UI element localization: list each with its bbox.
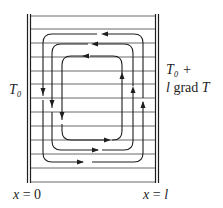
grad-text: grad: [170, 80, 202, 95]
left-position-label: x = 0: [13, 187, 41, 203]
arrow-down-icon: [50, 100, 55, 107]
left-wall: [28, 14, 31, 183]
arrow-right-icon: [104, 138, 111, 143]
l-symbol: l: [164, 187, 168, 202]
arrow-up-icon: [141, 101, 146, 108]
arrow-up-icon: [120, 72, 125, 79]
right-position-label: x = l: [143, 187, 168, 203]
left-temperature-label: T₀: [9, 82, 22, 98]
arrow-up-icon: [131, 86, 136, 93]
equals-text: =: [149, 187, 164, 202]
t0-plus-text: T₀ +: [166, 62, 192, 77]
arrow-left-icon: [101, 32, 108, 37]
convection-diagram: [0, 0, 223, 208]
arrow-down-icon: [41, 88, 46, 95]
arrow-right-icon: [92, 148, 99, 153]
right-temperature-label-line2: l grad T: [166, 80, 210, 96]
arrow-right-icon: [77, 160, 84, 165]
layer-lines: [31, 16, 155, 182]
right-temperature-label-line1: T₀ +: [166, 62, 192, 78]
arrow-down-icon: [60, 112, 65, 119]
arrow-left-icon: [82, 54, 89, 59]
t0-symbol: T₀: [9, 82, 22, 97]
t-symbol: T: [202, 80, 210, 95]
equals-zero-text: = 0: [19, 187, 41, 202]
right-wall: [156, 14, 159, 183]
arrow-left-icon: [91, 42, 98, 47]
